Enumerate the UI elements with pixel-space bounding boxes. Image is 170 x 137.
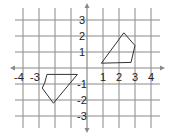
x-tick-label: -3 bbox=[30, 71, 40, 83]
arrow-up-icon bbox=[85, 3, 90, 8]
right-quadrilateral bbox=[101, 33, 135, 63]
left-pentagon bbox=[42, 74, 77, 103]
x-tick-label: 2 bbox=[116, 71, 122, 83]
y-tick-label: -1 bbox=[77, 78, 87, 90]
arrow-right-icon bbox=[160, 66, 165, 71]
coordinate-grid: -4-31234321-1-2-3 bbox=[0, 0, 170, 137]
y-tick-label: 1 bbox=[79, 46, 85, 58]
y-tick-label: 3 bbox=[79, 14, 85, 26]
y-tick-label: 2 bbox=[79, 30, 85, 42]
x-tick-label: 1 bbox=[100, 71, 106, 83]
x-tick-label: 3 bbox=[132, 71, 138, 83]
axes bbox=[10, 3, 165, 133]
y-tick-label: -2 bbox=[77, 94, 87, 106]
x-tick-label: 4 bbox=[148, 71, 154, 83]
arrow-left-icon bbox=[10, 66, 15, 71]
x-tick-label: -4 bbox=[14, 71, 24, 83]
arrow-down-icon bbox=[85, 128, 90, 133]
y-tick-label: -3 bbox=[77, 110, 87, 122]
